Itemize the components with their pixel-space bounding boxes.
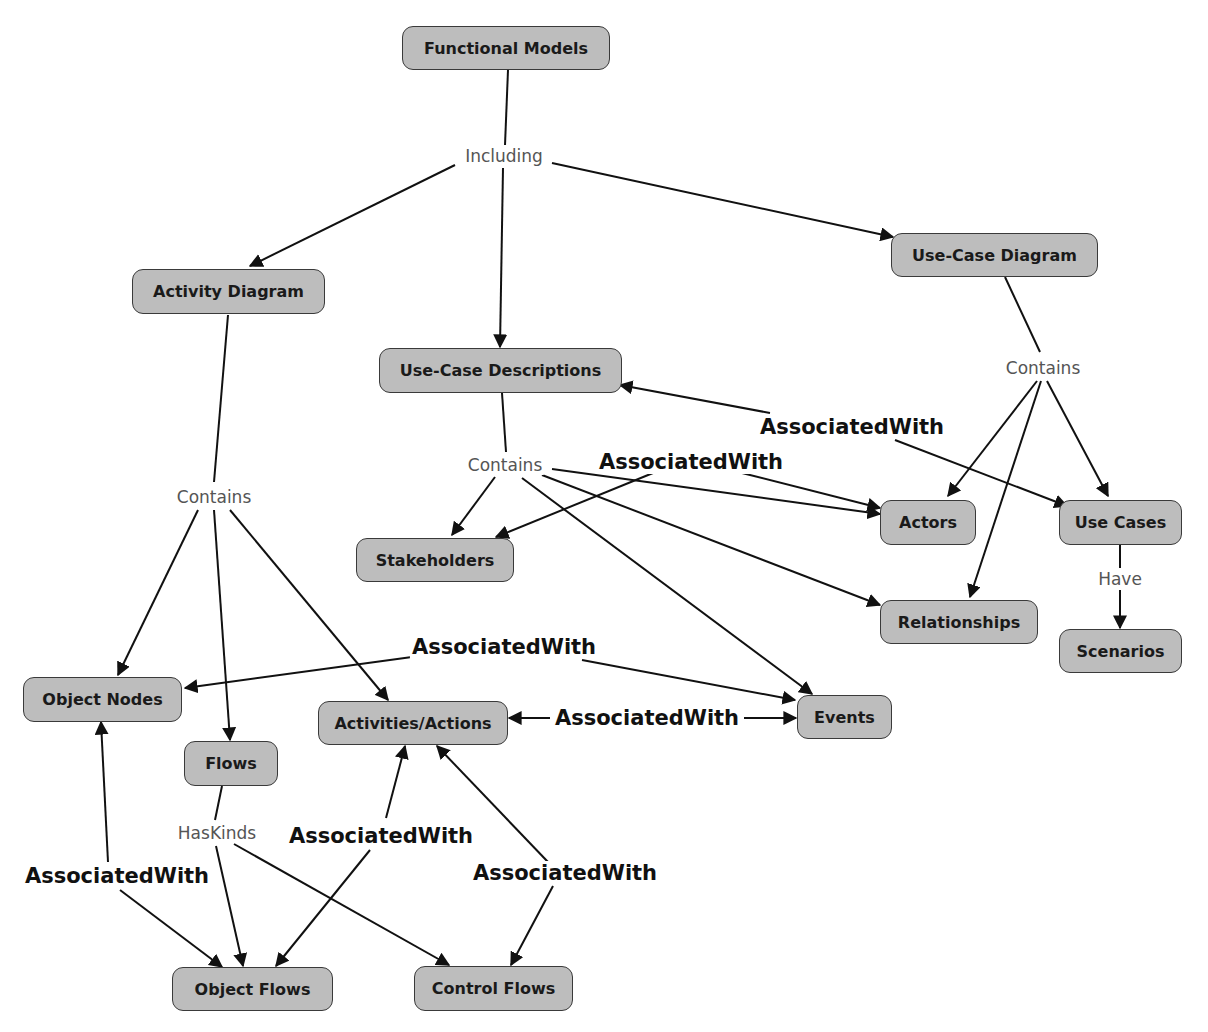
label-associated-descriptions-usecases: AssociatedWith [758, 415, 946, 439]
label-contains-descriptions: Contains [466, 455, 544, 475]
node-relationships[interactable]: Relationships [880, 600, 1038, 644]
concept-map: Functional Models Activity Diagram Use-C… [0, 0, 1208, 1032]
label-associated-objectnodes-objectflows: AssociatedWith [23, 864, 211, 888]
label-contains-activity: Contains [175, 487, 253, 507]
label-associated-activities-objectflows: AssociatedWith [287, 824, 475, 848]
node-events[interactable]: Events [797, 695, 892, 739]
node-actors[interactable]: Actors [880, 500, 976, 545]
label-associated-activities-events: AssociatedWith [553, 706, 741, 730]
node-use-case-diagram[interactable]: Use-Case Diagram [891, 233, 1098, 277]
node-use-cases[interactable]: Use Cases [1059, 500, 1182, 545]
node-functional-models[interactable]: Functional Models [402, 26, 610, 70]
label-associated-objectnodes-events: AssociatedWith [410, 635, 598, 659]
label-has-kinds: HasKinds [176, 823, 258, 843]
label-associated-activities-controlflows: AssociatedWith [471, 861, 659, 885]
label-including: Including [463, 146, 545, 166]
node-flows[interactable]: Flows [184, 741, 278, 786]
node-activities-actions[interactable]: Activities/Actions [318, 701, 508, 745]
node-object-flows[interactable]: Object Flows [172, 967, 333, 1011]
node-scenarios[interactable]: Scenarios [1059, 629, 1182, 673]
label-contains-use-case-diagram: Contains [1004, 358, 1082, 378]
label-associated-stakeholders-actors: AssociatedWith [597, 450, 785, 474]
node-object-nodes[interactable]: Object Nodes [23, 677, 182, 722]
node-stakeholders[interactable]: Stakeholders [356, 538, 514, 582]
node-control-flows[interactable]: Control Flows [414, 966, 573, 1011]
node-activity-diagram[interactable]: Activity Diagram [132, 269, 325, 314]
node-use-case-descriptions[interactable]: Use-Case Descriptions [379, 348, 622, 393]
label-have: Have [1096, 569, 1144, 589]
